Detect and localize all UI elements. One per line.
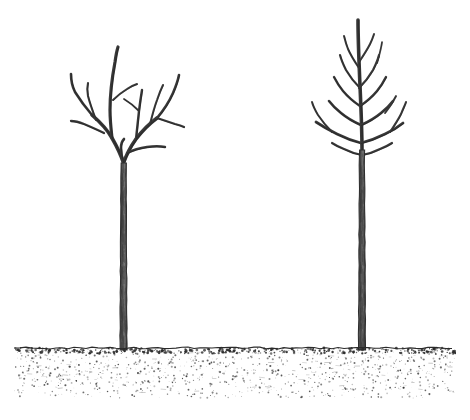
soil-speckle [74,376,75,377]
soil-speckle [223,363,224,364]
soil-speckle [232,356,234,358]
soil-speckle [370,357,371,358]
soil-speckle [66,371,67,372]
soil-speckle [118,387,119,388]
soil-speckle [359,349,361,351]
soil-speckle [191,366,193,368]
soil-speckle [403,348,404,349]
soil-speckle [136,353,138,355]
soil-speckle [119,397,120,398]
soil-speckle [95,388,96,389]
soil-speckle [364,370,366,372]
soil-speckle [423,365,424,366]
soil-speckle [40,386,41,387]
soil-speckle [420,392,421,393]
soil-speckle [313,352,315,354]
soil-speckle [347,362,348,363]
soil-speckle [149,371,150,372]
soil-speckle [172,382,173,383]
soil-speckle [418,370,419,371]
soil-speckle [34,378,35,379]
soil-speckle [113,390,115,392]
soil-speckle [403,383,404,384]
soil-speckle [243,369,245,371]
soil-speckle [191,361,192,362]
soil-speckle [320,383,322,385]
soil-speckle [42,369,43,370]
soil-speckle [194,362,196,364]
soil-speckle [244,349,246,351]
soil-speckle [127,367,128,368]
soil-speckle [223,352,225,354]
soil-speckle [378,359,379,360]
soil-speckle [352,351,355,354]
soil-speckle [85,371,86,372]
soil-speckle [61,375,62,376]
soil-speckle [332,368,333,369]
soil-speckle [281,361,282,362]
soil-speckle [393,362,394,363]
soil-speckle [76,364,77,365]
soil-speckle [67,352,68,353]
soil-speckle [321,363,322,364]
soil-speckle [342,377,344,379]
soil-speckle [379,368,380,369]
soil-speckle [380,382,381,383]
soil-speckle [198,361,199,362]
soil-speckle [173,380,175,382]
soil-speckle [219,365,220,366]
soil-speckle [444,383,445,384]
soil-speckle [110,396,111,397]
soil-speckle [228,384,229,385]
soil-speckle [452,391,454,393]
soil-speckle [310,350,311,351]
soil-speckle [120,348,121,349]
soil-speckle [379,366,381,368]
soil-speckle [372,387,374,389]
illustration-canvas: Two bare young trees planted in soil [0,0,470,420]
soil-speckle [413,382,414,383]
soil-speckle [20,366,21,367]
soil-speckle [348,365,349,366]
soil-speckle [286,351,288,353]
soil-speckle [298,352,299,353]
soil-speckle [252,352,253,353]
soil-speckle [117,348,119,350]
soil-speckle [194,356,196,358]
soil-speckle [447,387,449,389]
soil-speckle [395,382,397,384]
soil-speckle [33,357,35,359]
soil-speckle [413,353,414,354]
soil-speckle [187,352,189,354]
soil-speckle [222,353,223,354]
soil-speckle [343,374,344,375]
soil-speckle [354,367,355,368]
soil-speckle [58,350,59,351]
soil-speckle [201,360,202,361]
soil-speckle [434,360,436,362]
soil-speckle [320,352,321,353]
soil-speckle [143,353,144,354]
soil-speckle [34,362,35,363]
soil-speckle [78,370,80,372]
soil-speckle [49,359,51,361]
soil-speckle [101,349,102,350]
soil-speckle [58,373,60,375]
soil-speckle [46,381,47,382]
soil-speckle [309,391,311,393]
soil-speckle [23,390,24,391]
soil-speckle [288,381,289,382]
soil-speckle [396,371,397,372]
soil-speckle [159,350,161,352]
soil-speckle [195,352,196,353]
soil-speckle [318,367,319,368]
soil-speckle [262,391,263,392]
soil-speckle [186,362,187,363]
soil-speckle [418,352,420,354]
soil-speckle [259,363,261,365]
soil-speckle [391,351,392,352]
soil-speckle [271,369,273,371]
soil-speckle [364,385,365,386]
soil-speckle [276,348,279,351]
soil-speckle [171,358,173,360]
